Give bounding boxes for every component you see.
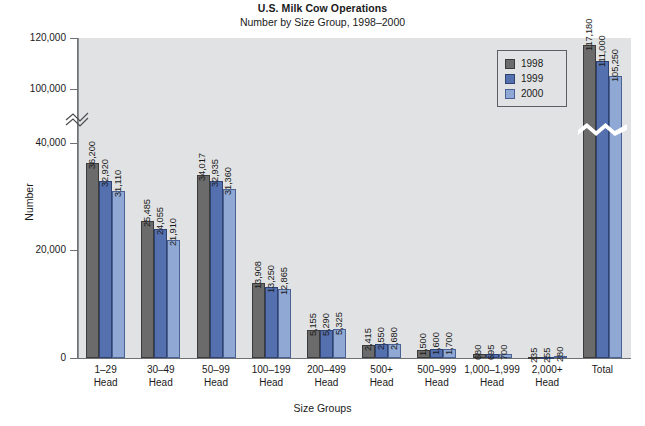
value-label-2000-5: 2,680 [390,327,399,350]
value-label-1999-5: 2,550 [377,328,386,351]
bar-1998-0[interactable] [86,163,99,358]
axis-break-icon [64,104,90,130]
y-tick-label-4: 120,000 [30,33,66,43]
x-category-line2-2: Head [184,377,247,390]
x-axis-title: Size Groups [0,402,645,414]
bar-1999-0[interactable] [99,181,112,358]
x-category-line1-4: 200–499 [295,364,358,377]
y-tick-label-1: 20,000 [35,245,66,255]
legend-swatch-icon-2000 [505,89,515,99]
x-category-line2-0: Head [74,377,137,390]
value-label-1998-9: 117,180 [585,19,594,51]
bar-2000-0[interactable] [112,191,125,358]
bar-1998-9[interactable] [583,45,596,358]
x-category-label-2: 50–99Head [184,364,247,389]
legend-item-1998[interactable]: 1998 [505,56,559,71]
legend-label-1999: 1999 [521,73,543,84]
chart-subtitle: Number by Size Group, 1998–2000 [0,16,645,28]
bar-1998-1[interactable] [141,221,154,358]
legend-label-2000: 2000 [521,88,543,99]
value-label-1999-9: 111,000 [598,35,607,67]
value-label-1999-6: 1,600 [432,333,441,356]
x-category-line2-4: Head [295,377,358,390]
value-label-2000-4: 5,325 [335,313,344,336]
x-category-label-7: 1,000–1,999Head [460,364,523,389]
value-label-1998-7: 680 [474,345,483,360]
y-tick-2 [70,143,78,144]
x-category-line2-5: Head [350,377,413,390]
value-label-2000-8: 280 [556,347,565,362]
value-label-1998-2: 34,017 [198,153,207,181]
value-label-1998-4: 5,155 [309,314,318,337]
x-category-label-8: 2,000+Head [516,364,579,389]
x-category-line1-7: 1,000–1,999 [460,364,523,377]
x-category-label-6: 500–999Head [405,364,468,389]
value-label-1998-1: 25,485 [143,199,152,227]
bar-2000-9[interactable] [609,76,622,358]
y-tick-1 [70,250,78,251]
value-label-2000-6: 1,700 [445,332,454,355]
value-label-1999-4: 5,290 [322,313,331,336]
x-category-label-1: 30–49Head [129,364,192,389]
x-category-line1-5: 500+ [350,364,413,377]
y-tick-label-2: 40,000 [35,138,66,148]
bar-1999-9[interactable] [596,61,609,358]
value-label-2000-2: 31,360 [224,168,233,196]
value-label-1999-0: 32,920 [101,159,110,187]
bar-1999-3[interactable] [265,287,278,358]
bar-1998-2[interactable] [197,175,210,358]
value-label-1999-2: 32,935 [211,159,220,187]
x-category-label-5: 500+Head [350,364,413,389]
bar-2000-2[interactable] [223,189,236,358]
value-label-2000-9: 105,250 [611,49,620,82]
value-label-1998-8: 235 [530,348,539,363]
x-category-line2-7: Head [460,377,523,390]
value-label-2000-7: 700 [500,345,509,360]
legend-label-1998: 1998 [521,58,543,69]
value-label-2000-3: 12,865 [280,267,289,295]
y-tick-4 [70,38,78,39]
x-category-line1-0: 1–29 [74,364,137,377]
value-label-1998-0: 36,200 [88,142,97,170]
bar-1999-2[interactable] [210,181,223,358]
x-category-label-9: Total [571,364,634,377]
legend-item-2000[interactable]: 2000 [505,86,559,101]
value-label-1999-8: 255 [543,347,552,362]
legend-swatch-icon-1999 [505,74,515,84]
y-tick-label-0: 0 [60,353,66,363]
x-category-label-4: 200–499Head [295,364,358,389]
x-category-line2-8: Head [516,377,579,390]
y-axis-title: Number [23,162,35,242]
chart-title: U.S. Milk Cow Operations [0,2,645,14]
value-label-1999-3: 13,250 [267,265,276,293]
y-tick-3 [70,89,78,90]
x-category-line2-3: Head [240,377,303,390]
legend: 1998 1999 2000 [497,50,567,107]
x-category-line1-1: 30–49 [129,364,192,377]
bar-2000-3[interactable] [278,289,291,358]
legend-item-1999[interactable]: 1999 [505,71,559,86]
y-axis-line [77,38,78,359]
x-category-label-3: 100–199Head [240,364,303,389]
y-tick-0 [70,358,78,359]
x-category-line2-1: Head [129,377,192,390]
chart-container: U.S. Milk Cow Operations Number by Size … [0,0,645,426]
value-label-1998-5: 2,415 [364,328,373,351]
x-category-line1-8: 2,000+ [516,364,579,377]
x-category-line1-9: Total [571,364,634,377]
value-label-1998-6: 1,500 [419,333,428,356]
value-label-2000-1: 21,910 [169,218,178,246]
x-category-line1-2: 50–99 [184,364,247,377]
x-category-label-0: 1–29Head [74,364,137,389]
bar-2000-1[interactable] [167,240,180,358]
x-category-line2-6: Head [405,377,468,390]
value-label-2000-0: 31,110 [114,170,123,197]
x-category-line1-6: 500–999 [405,364,468,377]
bar-1999-1[interactable] [154,229,167,358]
legend-swatch-icon-1998 [505,59,515,69]
y-tick-label-3: 100,000 [30,84,66,94]
x-category-line1-3: 100–199 [240,364,303,377]
value-label-1999-1: 24,055 [156,207,165,235]
value-label-1999-7: 695 [487,345,496,360]
bar-1998-3[interactable] [252,283,265,358]
